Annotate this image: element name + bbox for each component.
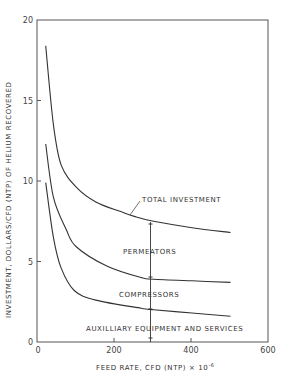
y-tick-label: 15 (23, 97, 33, 106)
y-tick-label: 20 (23, 16, 33, 25)
curve-series-1 (46, 144, 231, 282)
reference-line (149, 222, 153, 342)
chart: 0 5 10 15 20 0 200 400 600 FEED RATE, CF… (0, 0, 297, 380)
x-axis: 0 200 400 600 (35, 338, 275, 355)
x-axis-title: FEED RATE, CFD (NTP) × 10-6 (96, 362, 215, 372)
y-axis: 0 5 10 15 20 (23, 16, 41, 347)
y-tick-label: 10 (23, 177, 33, 186)
curves (46, 46, 231, 316)
x-tick-label: 600 (260, 346, 275, 355)
y-axis-title: INVESTMENT, DOLLARS/CFD (NTP) OF HELIUM … (5, 81, 13, 318)
label-auxilliary: AUXILLIARY EQUIPMENT AND SERVICES (86, 325, 243, 333)
x-tick-label: 400 (183, 346, 198, 355)
curve-series-0 (46, 46, 231, 233)
label-compressors: COMPRESSORS (119, 291, 179, 299)
label-permeators: PERMEATORS (123, 248, 176, 256)
x-tick-label: 200 (106, 346, 121, 355)
label-total-investment: TOTAL INVESTMENT (141, 196, 221, 204)
y-tick-label: 5 (28, 258, 33, 267)
annotation-leader (130, 201, 140, 215)
y-tick-label: 0 (28, 338, 33, 347)
x-tick-label: 0 (35, 346, 40, 355)
